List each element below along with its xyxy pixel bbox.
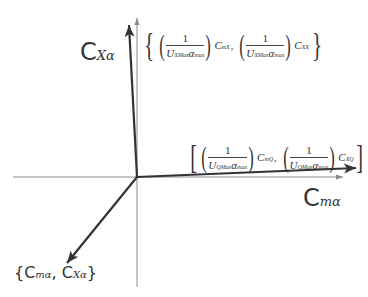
upper-vector-arrow (129, 25, 137, 177)
lower-left-vector-arrow (67, 177, 137, 263)
horizontal-axis-label: Cmα (303, 186, 341, 210)
fraction: 1 UXMaxαmax (246, 32, 284, 59)
close-bracket: ] (356, 140, 363, 174)
close-paren: ) (206, 30, 212, 60)
separator: , (274, 152, 277, 163)
coefficient: CmQ (257, 151, 273, 163)
close-brace: } (312, 28, 322, 62)
close-paren: ) (330, 142, 336, 172)
close-paren: ) (286, 30, 292, 60)
right-vector-formula: [ ( 1 UQMaxαmax ) CmQ , ( 1 UQMaxαmax ) … (188, 140, 365, 174)
horizontal-axis-label-sub: mα (320, 194, 341, 209)
upper-vector-formula: { ( 1 UXMaxαmax ) CmX , ( 1 UXMaxαmax ) … (141, 28, 325, 62)
open-paren: ( (283, 142, 289, 172)
fraction: 1 UQMaxαmax (208, 144, 247, 171)
open-brace: { (144, 28, 154, 62)
open-bracket: [ (190, 140, 197, 174)
vertical-axis-label-sub: Xα (97, 48, 115, 63)
open-paren: ( (160, 30, 166, 60)
open-paren: ( (239, 30, 245, 60)
horizontal-axis-label-main: C (303, 184, 320, 212)
coefficient: CXQ (338, 151, 353, 163)
coefficient: CmX (214, 39, 229, 51)
vertical-axis-label: CXα (80, 40, 115, 64)
close-paren: ) (248, 142, 254, 172)
coefficient: CXX (294, 39, 309, 51)
separator: , (231, 40, 234, 51)
fraction: 1 UQMaxαmax (290, 144, 329, 171)
vertical-axis-label-main: C (80, 38, 97, 66)
open-paren: ( (202, 142, 208, 172)
lower-left-vector-label: {Cmα, CXα} (14, 265, 97, 281)
fraction: 1 UXMaxαmax (166, 32, 204, 59)
